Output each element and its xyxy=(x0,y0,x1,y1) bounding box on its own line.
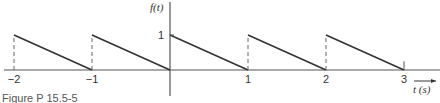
arrowhead-icon xyxy=(431,79,436,83)
y-axis-label: f(t) xyxy=(150,1,164,14)
sawtooth-chart: −2−1123 1 f(t) t (s) xyxy=(0,0,440,103)
sawtooth-segment xyxy=(170,35,248,70)
x-tick-label: −2 xyxy=(8,73,21,85)
x-tick-label: 1 xyxy=(245,73,251,85)
x-tick-label: −1 xyxy=(86,73,99,85)
svg-text:t (s): t (s) xyxy=(413,83,431,96)
y-tick-labels: 1 xyxy=(158,29,164,41)
sawtooth-segment xyxy=(248,35,326,70)
y-tick-label: 1 xyxy=(158,29,164,41)
figure-caption: Figure P 15.5-5 xyxy=(2,92,78,103)
sawtooth-segment xyxy=(326,35,404,70)
sawtooth-segment xyxy=(14,35,92,70)
x-tick-label: 3 xyxy=(401,73,407,85)
x-axis-label: t (s) xyxy=(413,79,436,96)
x-tick-labels: −2−1123 xyxy=(8,73,407,85)
sawtooth-series xyxy=(14,35,404,70)
x-tick-label: 2 xyxy=(323,73,329,85)
